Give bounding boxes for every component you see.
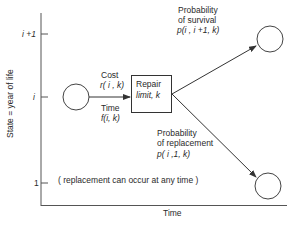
repair-limit-box: Repair limit, k — [131, 75, 172, 113]
replacement-expr: p( i ,1, k) — [157, 149, 190, 159]
repair-box-line2: limit, k — [136, 90, 167, 101]
survival-expr: p(i , i +1, k) — [177, 25, 219, 35]
state-node-survival — [257, 26, 283, 52]
y-axis-label: State = year of life — [5, 69, 15, 138]
replacement-note: ( replacement can occur at any time ) — [58, 175, 198, 185]
repair-box-line1: Repair — [136, 79, 167, 90]
replacement-line2: of replacement — [157, 138, 213, 148]
arrow-survival — [172, 46, 256, 94]
survival-line1: Probability — [178, 5, 218, 15]
time-expr: f(i, k) — [101, 113, 120, 123]
x-axis-label: Time — [163, 208, 182, 218]
survival-line2: of survival — [178, 15, 216, 25]
state-node-current — [63, 84, 89, 110]
tick-label-1: 1 — [34, 178, 39, 188]
cost-label: Cost — [101, 70, 118, 80]
state-node-replacement — [255, 173, 281, 199]
diagram-canvas — [0, 0, 302, 226]
tick-label-i-plus-1: i +1 — [22, 29, 36, 39]
cost-expr: r( i , k) — [100, 80, 124, 90]
tick-label-i: i — [33, 92, 35, 102]
replacement-line1: Probability — [157, 128, 197, 138]
time-label: Time — [101, 103, 120, 113]
